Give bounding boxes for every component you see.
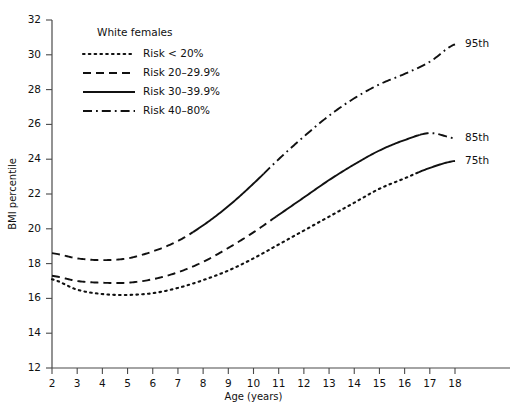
y-tick-label: 26	[28, 117, 42, 129]
legend-label: Risk 30–39.9%	[143, 85, 220, 97]
end-label-95th: 95th	[465, 37, 489, 49]
y-tick-label: 24	[28, 152, 42, 164]
y-axis-title: BMI percentile	[7, 158, 18, 230]
x-tick-label: 10	[247, 377, 260, 389]
legend-title: White females	[97, 26, 173, 38]
y-tick-label: 14	[28, 326, 42, 338]
x-axis-title: Age (years)	[225, 391, 283, 402]
y-tick-label: 12	[28, 361, 41, 373]
bmi-percentile-chart: 1214161820222426283032 23456789101112131…	[0, 0, 515, 406]
x-tick-label: 15	[373, 377, 386, 389]
x-tick-label: 4	[99, 377, 106, 389]
x-tick-label: 5	[124, 377, 131, 389]
legend-label: Risk < 20%	[143, 47, 204, 59]
chart-background	[0, 0, 515, 406]
y-tick-label: 30	[28, 48, 41, 60]
y-tick-label: 18	[28, 257, 41, 269]
x-tick-label: 3	[74, 377, 81, 389]
x-tick-label: 8	[200, 377, 207, 389]
x-tick-label: 14	[348, 377, 362, 389]
x-tick-label: 13	[322, 377, 335, 389]
x-tick-label: 17	[423, 377, 436, 389]
legend-label: Risk 40–80%	[143, 104, 210, 116]
x-tick-label: 7	[175, 377, 182, 389]
x-tick-label: 18	[448, 377, 461, 389]
end-label-85th: 85th	[465, 131, 489, 143]
x-tick-label: 16	[398, 377, 412, 389]
chart-canvas: 1214161820222426283032 23456789101112131…	[0, 0, 515, 406]
x-tick-label: 6	[149, 377, 156, 389]
y-tick-label: 32	[28, 13, 41, 25]
y-tick-label: 28	[28, 83, 41, 95]
legend-label: Risk 20–29.9%	[143, 66, 220, 78]
x-tick-label: 2	[49, 377, 56, 389]
y-tick-label: 22	[28, 187, 41, 199]
x-tick-label: 12	[297, 377, 310, 389]
x-tick-label: 9	[225, 377, 232, 389]
y-tick-label: 20	[28, 222, 41, 234]
end-label-75th: 75th	[465, 154, 489, 166]
x-tick-label: 11	[272, 377, 285, 389]
y-tick-label: 16	[28, 291, 42, 303]
